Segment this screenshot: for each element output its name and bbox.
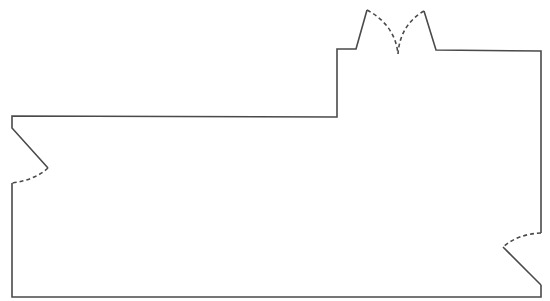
floor-plan-diagram	[0, 0, 550, 301]
top-door-swing-right	[398, 11, 424, 54]
left-door-swing	[12, 168, 48, 183]
right-door-swing	[503, 233, 541, 247]
right-lower-diagonal	[503, 247, 541, 285]
outline-svg	[0, 0, 550, 301]
top-left-wall	[12, 10, 367, 168]
walls	[12, 10, 541, 297]
bottom-wall	[12, 183, 541, 297]
door-swings	[12, 10, 541, 247]
top-door-swing-left	[367, 10, 398, 54]
right-upper-wall	[424, 11, 541, 233]
